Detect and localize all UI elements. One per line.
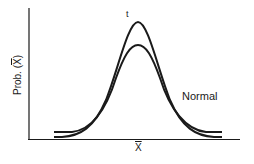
t-curve xyxy=(54,22,222,137)
y-label-suffix: ) xyxy=(12,55,23,58)
t-curve-label: t xyxy=(126,10,129,19)
normal-curve-label: Normal xyxy=(182,91,217,102)
normal-curve xyxy=(54,45,222,132)
y-axis-label: Prob. (X) xyxy=(13,45,23,105)
y-label-prefix: Prob. ( xyxy=(12,65,23,95)
distribution-plot xyxy=(0,0,254,164)
y-label-var: X xyxy=(12,58,23,65)
x-bar-symbol: X xyxy=(135,142,142,153)
x-axis-label: X xyxy=(135,143,142,153)
